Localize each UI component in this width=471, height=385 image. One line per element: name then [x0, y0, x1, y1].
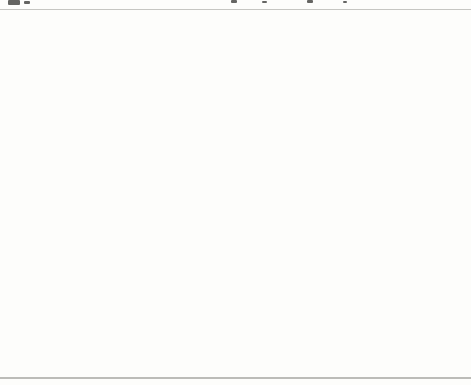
legend	[0, 283, 471, 307]
textbook-figure-page	[0, 0, 471, 385]
bottom-rule	[0, 377, 471, 379]
us-spending-per-pupil-map	[0, 0, 471, 280]
